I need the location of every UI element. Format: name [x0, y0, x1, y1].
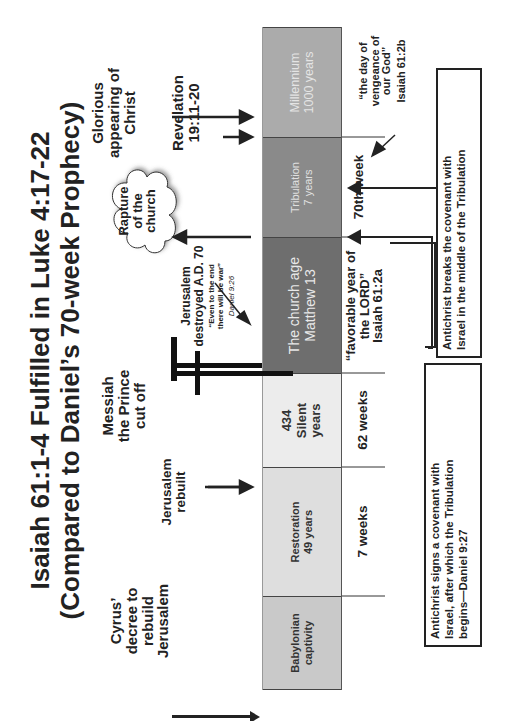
- quote-day-of-vengeance: “the day ofvengeance ofour God”Isaiah 61…: [358, 21, 407, 121]
- label-62-weeks: 62 weeks: [356, 373, 370, 467]
- label-70th-week: 70th week: [352, 137, 366, 237]
- segment-tribulation: Tribulation7 years: [262, 137, 342, 237]
- segment-millennium: Millennium1000 years: [262, 27, 342, 137]
- segment-church-age: The church ageMatthew 13: [262, 237, 342, 373]
- segment-babylonian-captivity: Babyloniancaptivity: [262, 596, 342, 690]
- box-antichrist-signs-covenant: Antichrist signs a covenant withIsrael, …: [424, 363, 482, 647]
- quote-favorable-year: “favorable year ofthe LORD”Isaiah 61:2a: [344, 241, 385, 371]
- diagram-canvas: Isaiah 61:1-4 Fulfilled in Luke 4:17-22 …: [0, 0, 511, 721]
- segment-silent-years: 434Silentyears: [262, 373, 342, 467]
- segment-restoration: Restoration49 years: [262, 467, 342, 596]
- cross-arm: [195, 351, 200, 395]
- cross-icon: [171, 371, 293, 376]
- box-antichrist-breaks-covenant: Antichrist breaks the covenant withIsrae…: [436, 68, 482, 358]
- label-7-weeks: 7 weeks: [356, 467, 370, 596]
